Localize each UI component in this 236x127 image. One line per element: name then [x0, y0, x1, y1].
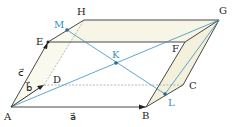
- label-E: E: [36, 36, 43, 47]
- label-M: M: [54, 19, 64, 30]
- label-vector-b: b⃗: [25, 81, 32, 93]
- arrow-a-head: [139, 105, 146, 110]
- label-C: C: [189, 80, 197, 91]
- label-B: B: [142, 110, 149, 121]
- parallelepiped-diagram: A B C D E F G H M K L a⃗ b⃗ c⃗: [0, 0, 236, 127]
- label-H: H: [77, 6, 86, 17]
- label-A: A: [3, 111, 12, 122]
- point-E: [47, 41, 50, 44]
- point-L: [163, 92, 167, 96]
- label-vector-a: a⃗: [70, 111, 76, 122]
- point-K: [114, 61, 118, 65]
- label-F: F: [172, 43, 179, 54]
- face-left: [11, 20, 84, 107]
- label-vector-c: c⃗: [18, 67, 24, 78]
- point-M: [65, 28, 69, 32]
- label-L: L: [168, 97, 175, 108]
- label-D: D: [53, 74, 61, 85]
- label-K: K: [112, 49, 120, 60]
- label-G: G: [219, 5, 227, 16]
